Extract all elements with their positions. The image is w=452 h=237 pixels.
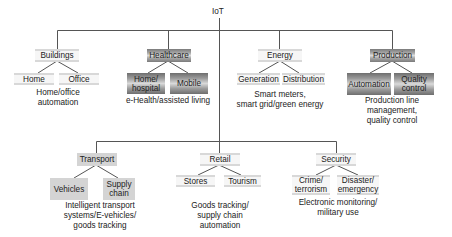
node-home-hospital: Home/ hospital <box>127 73 165 94</box>
description-line: Intelligent transport <box>55 201 145 211</box>
node-automation: Automation <box>347 73 391 95</box>
node-label-line: Supply <box>106 180 131 189</box>
description-line: management, <box>350 106 434 116</box>
node-generation: Generation <box>237 73 280 85</box>
node-transport: Transport <box>77 153 117 166</box>
node-label-line: Crime/ <box>299 176 323 185</box>
description-line: Smart meters, <box>232 90 328 100</box>
description-line: quality control <box>350 116 434 126</box>
node-supply-chain: Supply chain <box>103 178 135 200</box>
node-label-line: Disaster/ <box>342 176 374 185</box>
description-buildings: Home/office automation <box>20 88 96 108</box>
node-stores: Stores <box>176 175 215 187</box>
description-line: Production line <box>350 96 434 106</box>
node-label-line: control <box>402 84 427 93</box>
node-label-line: Home/ <box>134 75 158 84</box>
description-production: Production line management, quality cont… <box>350 96 434 126</box>
description-line: Home/office <box>20 88 96 98</box>
root-node-iot: IoT <box>212 7 224 16</box>
description-security: Electronic monitoring/ military use <box>292 198 384 218</box>
description-line: Goods tracking/ <box>180 201 260 211</box>
description-line: automation <box>180 221 260 231</box>
node-retail: Retail <box>200 153 240 166</box>
description-line: e-Health/assisted living <box>118 96 218 106</box>
node-healthcare: Healthcare <box>147 49 191 62</box>
description-energy: Smart meters, smart grid/green energy <box>232 90 328 110</box>
node-label-line: hospital <box>132 84 160 93</box>
node-production: Production <box>370 49 415 62</box>
node-label-line: terrorism <box>295 185 327 194</box>
description-line: systems/E-vehicles/ <box>55 211 145 221</box>
description-line: Electronic monitoring/ <box>292 198 384 208</box>
node-home: Home <box>14 73 54 85</box>
node-disaster-emergency: Disaster/ emergency <box>337 175 379 195</box>
description-line: smart grid/green energy <box>232 100 328 110</box>
description-line: military use <box>292 208 384 218</box>
node-buildings: Buildings <box>35 49 79 62</box>
description-line: automation <box>20 98 96 108</box>
node-office: Office <box>59 73 99 85</box>
description-line: goods tracking <box>55 221 145 231</box>
description-retail: Goods tracking/ supply chain automation <box>180 201 260 231</box>
node-vehicles: Vehicles <box>50 178 88 200</box>
node-mobile: Mobile <box>170 73 208 94</box>
node-label-line: chain <box>109 189 129 198</box>
node-tourism: Tourism <box>224 175 261 187</box>
node-energy: Energy <box>258 49 302 62</box>
description-line: supply chain <box>180 211 260 221</box>
node-crime-terrorism: Crime/ terrorism <box>292 175 330 195</box>
node-security: Security <box>316 153 356 166</box>
node-label-line: Quality <box>401 75 426 84</box>
node-distribution: Distribution <box>282 73 325 85</box>
node-label-line: emergency <box>338 185 379 194</box>
node-quality-control: Quality control <box>394 73 434 95</box>
description-healthcare: e-Health/assisted living <box>118 96 218 106</box>
description-transport: Intelligent transport systems/E-vehicles… <box>55 201 145 231</box>
